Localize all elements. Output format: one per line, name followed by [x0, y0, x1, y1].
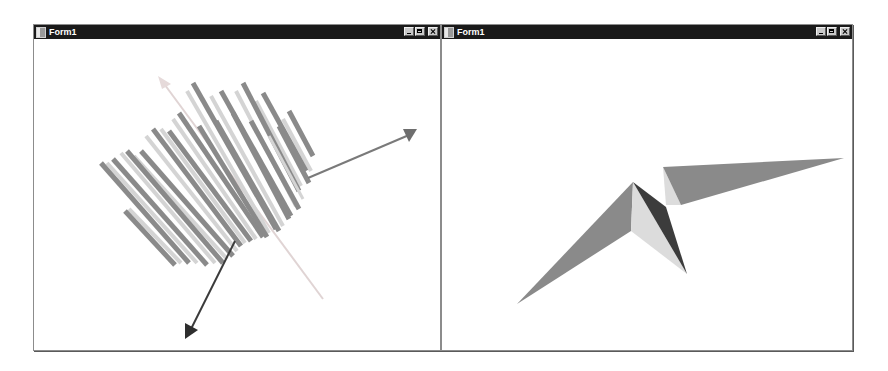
surface-polygons: [517, 158, 844, 304]
maximize-button[interactable]: [415, 27, 425, 36]
surface-face: [663, 158, 844, 205]
surface-face: [517, 182, 633, 304]
app-icon[interactable]: [36, 27, 46, 38]
close-button[interactable]: [840, 27, 850, 36]
title-bar[interactable]: Form1: [442, 25, 852, 39]
form1-window-left[interactable]: Form1: [33, 24, 441, 351]
app-icon[interactable]: [444, 27, 454, 38]
x-axis-arrowhead-icon: [403, 129, 417, 142]
window-title: Form1: [49, 25, 77, 39]
3d-surface-canvas[interactable]: [442, 39, 852, 350]
window-title: Form1: [457, 25, 485, 39]
minimize-button[interactable]: [816, 27, 826, 36]
close-button[interactable]: [428, 27, 438, 36]
maximize-button[interactable]: [827, 27, 837, 36]
window-controls: [404, 27, 438, 36]
surface-graphic: [442, 39, 852, 350]
bar-chart-graphic: [34, 39, 440, 350]
z-axis-arrowhead-icon: [185, 323, 198, 339]
x-axis: [308, 129, 417, 178]
minimize-button[interactable]: [404, 27, 414, 36]
form1-window-right[interactable]: Form1: [441, 24, 853, 351]
bars: [101, 83, 313, 265]
title-bar[interactable]: Form1: [34, 25, 440, 39]
window-controls: [816, 27, 850, 36]
y-axis-arrowhead-icon: [158, 76, 171, 89]
3d-bar-chart-canvas[interactable]: [34, 39, 440, 350]
